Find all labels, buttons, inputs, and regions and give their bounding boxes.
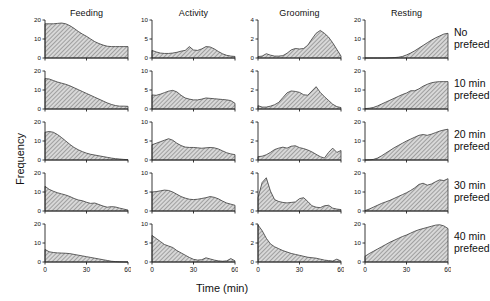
y-tick-label: 4 xyxy=(251,220,255,227)
y-tick-label: 4 xyxy=(251,16,255,23)
y-tick-label: 20 xyxy=(34,169,41,176)
panel-activity-row3: 0510 xyxy=(130,116,238,172)
panel-svg: 01020 xyxy=(343,116,451,172)
y-tick-label: 10 xyxy=(34,137,41,144)
x-axis-label: Time (min) xyxy=(196,282,248,294)
panel-svg: 01020 xyxy=(343,167,451,223)
row-label-1: 10 minprefeed xyxy=(454,78,490,101)
panel-feeding-row2: 01020 xyxy=(23,65,131,121)
panel-svg: 0510 xyxy=(130,167,238,223)
area-series xyxy=(45,132,128,161)
panel-activity-row1: 0510 xyxy=(130,14,238,70)
panel-svg: 01020 xyxy=(23,167,131,223)
y-tick-label: 4 xyxy=(251,118,255,125)
area-series xyxy=(258,178,341,211)
panel-activity-row2: 0510 xyxy=(130,65,238,121)
y-tick-label: 10 xyxy=(141,169,148,176)
panel-svg: 01020 xyxy=(343,14,451,70)
area-series xyxy=(152,190,235,211)
y-tick-label: 0 xyxy=(38,105,42,112)
y-tick-label: 0 xyxy=(145,156,149,163)
y-tick-label: 10 xyxy=(354,188,361,195)
area-series xyxy=(45,186,128,211)
panel-feeding-row1: 01020 xyxy=(23,14,131,70)
panel-resting-row2: 01020 xyxy=(343,65,451,121)
y-tick-label: 0 xyxy=(38,156,42,163)
panel-grooming-row4: 024 xyxy=(236,167,344,223)
y-tick-label: 10 xyxy=(34,35,41,42)
y-tick-label: 2 xyxy=(251,86,255,93)
y-tick-label: 10 xyxy=(354,35,361,42)
y-tick-label: 4 xyxy=(251,67,255,74)
y-tick-label: 5 xyxy=(145,86,149,93)
y-tick-label: 0 xyxy=(145,207,149,214)
y-tick-label: 20 xyxy=(34,118,41,125)
y-tick-label: 0 xyxy=(251,54,255,61)
y-tick-label: 20 xyxy=(34,16,41,23)
panel-svg: 0510 xyxy=(130,65,238,121)
y-tick-label: 0 xyxy=(358,54,362,61)
row-label-line2: prefeed xyxy=(454,39,490,51)
y-tick-label: 20 xyxy=(354,67,361,74)
x-tick-label: 60 xyxy=(444,266,451,273)
area-series xyxy=(365,179,448,211)
panel-feeding-row5: 0102003060 xyxy=(23,218,131,274)
y-tick-label: 0 xyxy=(38,54,42,61)
area-series xyxy=(365,33,448,58)
panel-resting-row1: 01020 xyxy=(343,14,451,70)
row-label-2: 20 minprefeed xyxy=(454,129,490,152)
y-tick-label: 10 xyxy=(354,86,361,93)
y-tick-label: 0 xyxy=(145,105,149,112)
y-tick-label: 10 xyxy=(34,86,41,93)
panel-grooming-row1: 024 xyxy=(236,14,344,70)
row-label-line2: prefeed xyxy=(454,192,490,204)
area-series xyxy=(45,79,128,109)
y-tick-label: 10 xyxy=(141,118,148,125)
y-tick-label: 4 xyxy=(251,169,255,176)
panel-svg: 024 xyxy=(236,65,344,121)
row-label-line1: No xyxy=(454,27,490,39)
y-tick-label: 10 xyxy=(34,239,41,246)
y-tick-label: 0 xyxy=(251,207,255,214)
panel-svg: 0510 xyxy=(130,116,238,172)
area-series xyxy=(365,82,448,109)
panel-svg: 01020 xyxy=(23,14,131,70)
x-tick-label: 0 xyxy=(43,266,47,273)
area-series xyxy=(365,129,448,160)
panel-svg: 01020 xyxy=(343,65,451,121)
y-tick-label: 0 xyxy=(38,258,42,265)
panel-svg: 0102003060 xyxy=(23,218,131,274)
row-label-line1: 20 min xyxy=(454,129,490,141)
y-tick-label: 10 xyxy=(354,137,361,144)
row-label-4: 40 minprefeed xyxy=(454,231,490,254)
y-tick-label: 20 xyxy=(354,220,361,227)
x-tick-label: 30 xyxy=(190,266,198,273)
area-series xyxy=(258,87,341,109)
y-tick-label: 2 xyxy=(251,188,255,195)
y-tick-label: 0 xyxy=(251,258,255,265)
area-series xyxy=(152,139,235,160)
x-tick-label: 0 xyxy=(150,266,154,273)
panel-svg: 01020 xyxy=(23,116,131,172)
y-tick-label: 0 xyxy=(251,105,255,112)
row-label-line1: 10 min xyxy=(454,78,490,90)
panel-resting-row3: 01020 xyxy=(343,116,451,172)
row-label-line1: 40 min xyxy=(454,231,490,243)
panel-grooming-row5: 02403060 xyxy=(236,218,344,274)
panel-activity-row4: 0510 xyxy=(130,167,238,223)
panel-feeding-row3: 01020 xyxy=(23,116,131,172)
y-tick-label: 20 xyxy=(354,169,361,176)
y-tick-label: 5 xyxy=(145,188,149,195)
row-label-line2: prefeed xyxy=(454,141,490,153)
panel-svg: 024 xyxy=(236,167,344,223)
y-tick-label: 0 xyxy=(358,156,362,163)
y-tick-label: 20 xyxy=(354,16,361,23)
panel-svg: 0510 xyxy=(130,14,238,70)
y-tick-label: 2 xyxy=(251,35,255,42)
y-tick-label: 0 xyxy=(358,105,362,112)
panel-resting-row4: 01020 xyxy=(343,167,451,223)
area-series xyxy=(258,30,341,58)
y-tick-label: 10 xyxy=(354,239,361,246)
y-tick-label: 2 xyxy=(251,137,255,144)
y-tick-label: 5 xyxy=(145,239,149,246)
